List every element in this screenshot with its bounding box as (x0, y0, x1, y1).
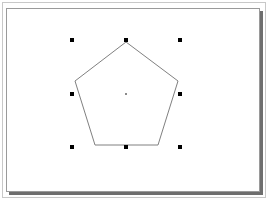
resize-handle-top-center[interactable] (124, 38, 128, 42)
rotation-center-point[interactable] (125, 93, 127, 95)
resize-handle-bottom-left[interactable] (70, 145, 74, 149)
resize-handle-top-left[interactable] (70, 38, 74, 42)
resize-handle-bottom-right[interactable] (178, 145, 182, 149)
resize-handle-bottom-center[interactable] (124, 145, 128, 149)
drawing-canvas (0, 0, 271, 203)
resize-handle-middle-right[interactable] (178, 92, 182, 96)
resize-handle-middle-left[interactable] (70, 92, 74, 96)
resize-handle-top-right[interactable] (178, 38, 182, 42)
